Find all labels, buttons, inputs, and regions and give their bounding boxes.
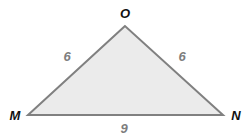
triangle-diagram: O M N 6 6 9 <box>0 0 249 135</box>
triangle-mon <box>28 26 223 115</box>
vertex-label-o: O <box>120 6 130 21</box>
vertex-label-m: M <box>10 108 22 123</box>
side-label-mo: 6 <box>63 49 71 64</box>
vertex-label-n: N <box>231 108 241 123</box>
side-label-on: 6 <box>178 49 186 64</box>
side-label-mn: 9 <box>120 121 128 135</box>
